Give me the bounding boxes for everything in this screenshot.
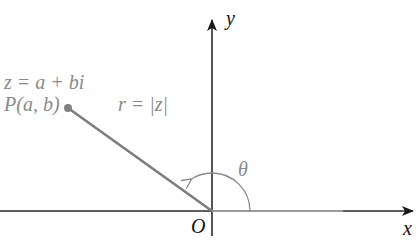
complex-number-equation: z = a + bi [4, 72, 84, 92]
diagram-graphics [0, 0, 419, 241]
modulus-vector [68, 108, 212, 211]
modulus-label: r = |z| [118, 94, 168, 114]
point-p-dot [64, 104, 72, 112]
complex-plane-diagram: y x O z = a + bi P(a, b) r = |z| θ [0, 0, 419, 241]
angle-theta-label: θ [238, 159, 248, 179]
point-p-label: P(a, b) [4, 94, 60, 114]
origin-label: O [191, 216, 205, 236]
y-axis-label: y [226, 8, 235, 28]
x-axis-label: x [403, 218, 412, 238]
